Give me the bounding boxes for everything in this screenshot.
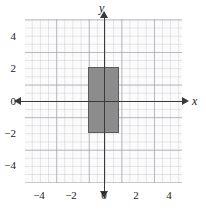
x-tick-label: −2 bbox=[60, 190, 82, 201]
x-axis-label: x bbox=[192, 95, 197, 107]
x-axis-line bbox=[16, 101, 184, 102]
y-tick-label: −4 bbox=[0, 160, 16, 171]
y-tick-label: −2 bbox=[0, 128, 16, 139]
x-tick-label: 0 bbox=[93, 190, 115, 201]
x-tick-label: 4 bbox=[158, 190, 180, 201]
y-axis-label: y bbox=[99, 2, 104, 14]
x-axis-arrow-right-icon bbox=[182, 97, 189, 105]
y-axis-line bbox=[104, 12, 105, 198]
y-tick-label: 0 bbox=[0, 96, 16, 107]
y-tick-label: 2 bbox=[0, 63, 16, 74]
coordinate-plane-figure: x y 4 2 0 −2 −4 −4 −2 0 2 4 bbox=[0, 0, 206, 210]
x-tick-label: 2 bbox=[125, 190, 147, 201]
y-tick-label: 4 bbox=[0, 31, 16, 42]
x-tick-label: −4 bbox=[28, 190, 50, 201]
